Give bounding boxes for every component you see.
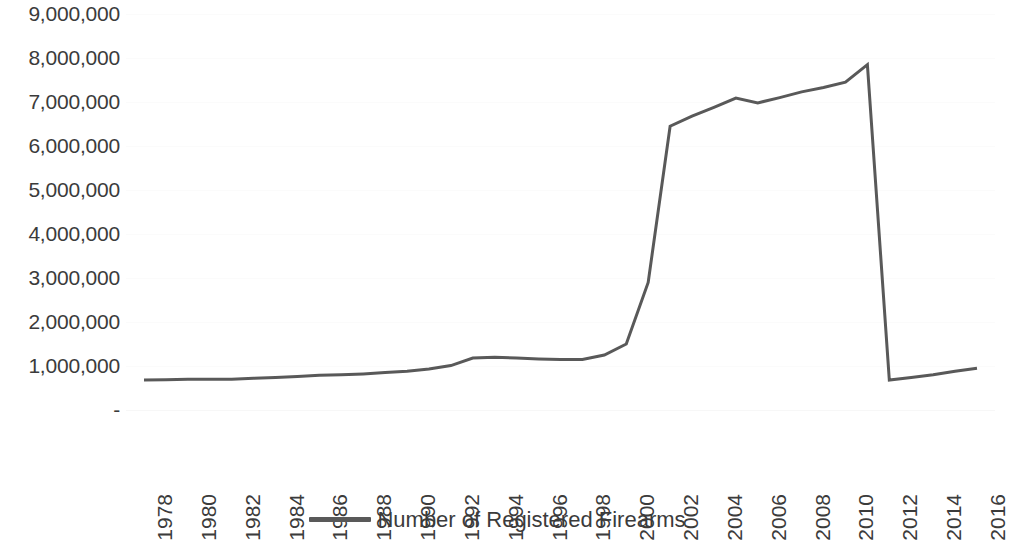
y-axis-tick-label: 8,000,000 (0, 47, 120, 68)
y-axis-tick-label: 7,000,000 (0, 91, 120, 112)
y-axis-tick-label: 9,000,000 (0, 3, 120, 24)
y-axis: 9,000,0008,000,0007,000,0006,000,0005,00… (0, 0, 120, 420)
chart-legend: Number of Registered Firearms (0, 503, 995, 536)
legend-item-label: Number of Registered Firearms (377, 508, 685, 532)
legend-item-number-of-registered-firearms: Number of Registered Firearms (309, 508, 685, 532)
y-axis-tick-label: - (0, 399, 120, 420)
y-axis-tick-label: 2,000,000 (0, 311, 120, 332)
y-axis-tick-label: 6,000,000 (0, 135, 120, 156)
x-axis: 1978198019821984198619881990199219941996… (126, 414, 995, 502)
series-layer (126, 0, 995, 414)
series-line-number-of-registered-firearms (144, 65, 977, 380)
y-axis-tick-label: 5,000,000 (0, 179, 120, 200)
legend-line-swatch-icon (309, 517, 371, 522)
y-axis-tick-label: 4,000,000 (0, 223, 120, 244)
plot-area (126, 0, 995, 414)
y-axis-tick-label: 3,000,000 (0, 267, 120, 288)
y-axis-tick-label: 1,000,000 (0, 355, 120, 376)
